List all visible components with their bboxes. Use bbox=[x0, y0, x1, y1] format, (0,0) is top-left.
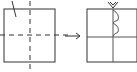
scalloped-cut-shape bbox=[113, 10, 118, 36]
right-square-outline bbox=[87, 9, 137, 62]
left-square-figure bbox=[0, 1, 70, 70]
right-square-figure bbox=[87, 2, 137, 62]
folding-diagram bbox=[0, 0, 137, 72]
arrow-right-icon bbox=[65, 33, 80, 39]
v-notch-inner bbox=[110, 2, 116, 5]
